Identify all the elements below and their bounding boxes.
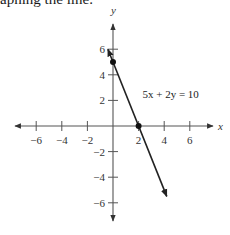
coordinate-plane: xy−6−4−2246642−2−4−65x + 2y = 10	[0, 0, 230, 235]
intercept-point	[136, 123, 142, 129]
x-tick-label: −6	[30, 134, 42, 146]
x-axis-label: x	[217, 120, 223, 132]
y-tick-label: 4	[100, 69, 106, 81]
x-tick-label: 4	[161, 134, 167, 146]
equation-label: 5x + 2y = 10	[142, 88, 199, 100]
x-tick-label: −2	[82, 134, 94, 146]
y-tick-label: 2	[100, 94, 106, 106]
y-tick-label: −6	[93, 197, 105, 209]
y-axis-label: y	[110, 4, 116, 16]
y-tick-label: 6	[100, 43, 106, 55]
line-series	[108, 49, 167, 196]
x-tick-label: 2	[136, 134, 142, 146]
intercept-point	[110, 59, 116, 65]
y-tick-label: −2	[93, 146, 105, 158]
y-tick-label: −4	[93, 171, 105, 183]
x-tick-label: 6	[187, 134, 193, 146]
x-tick-label: −4	[56, 134, 68, 146]
